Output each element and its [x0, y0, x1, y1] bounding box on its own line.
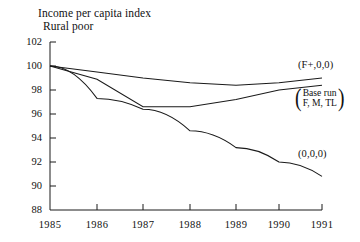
- series-annotation-f-plus: (F+,0,0): [298, 59, 333, 70]
- series-line-f-plus: [50, 66, 322, 85]
- series-line-base-run: [50, 66, 322, 107]
- x-axis-ticks: [97, 204, 322, 210]
- series-annotation-zero: (0,0,0): [298, 148, 327, 159]
- series-annotation-base-run: ( Base run F, M, TL ): [294, 88, 346, 108]
- y-axis-ticks: [50, 42, 56, 186]
- chart-figure: Income per capita index Rural poor 102 1…: [0, 0, 360, 242]
- series-annotation-base-run-line2: F, M, TL: [303, 98, 337, 108]
- paren-open: (: [295, 88, 302, 108]
- paren-close: ): [338, 88, 345, 108]
- chart-plot-area: [0, 0, 360, 242]
